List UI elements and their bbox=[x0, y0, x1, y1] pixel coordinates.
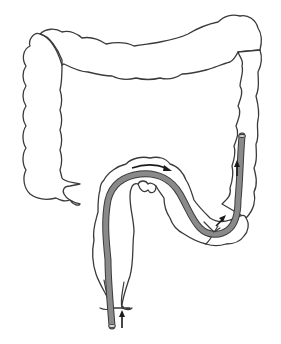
endoscope-tip bbox=[239, 134, 246, 137]
sigmoid-fold bbox=[138, 184, 156, 193]
transverse-colon bbox=[40, 15, 261, 79]
endoscope-base bbox=[109, 325, 116, 328]
insertion-arrow bbox=[119, 310, 125, 328]
colon-endoscope-diagram bbox=[0, 0, 281, 344]
